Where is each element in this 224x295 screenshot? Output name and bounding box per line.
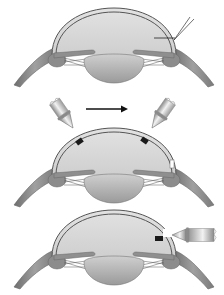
probe-left xyxy=(47,96,79,132)
panel-step-3 xyxy=(14,210,216,289)
marker-side xyxy=(155,236,163,241)
eye-cross-section-2 xyxy=(14,128,214,207)
direction-arrow xyxy=(86,106,128,113)
corneal-opening xyxy=(163,229,171,237)
panel-step-1 xyxy=(14,8,214,87)
eye-cross-section-3 xyxy=(14,210,214,289)
probe-horizontal xyxy=(172,228,216,243)
eye-cross-section-1 xyxy=(14,8,214,87)
probe-right xyxy=(146,96,178,132)
panel-step-2 xyxy=(14,96,214,207)
limbal-notch xyxy=(170,160,174,168)
diagram-canvas xyxy=(0,0,224,295)
